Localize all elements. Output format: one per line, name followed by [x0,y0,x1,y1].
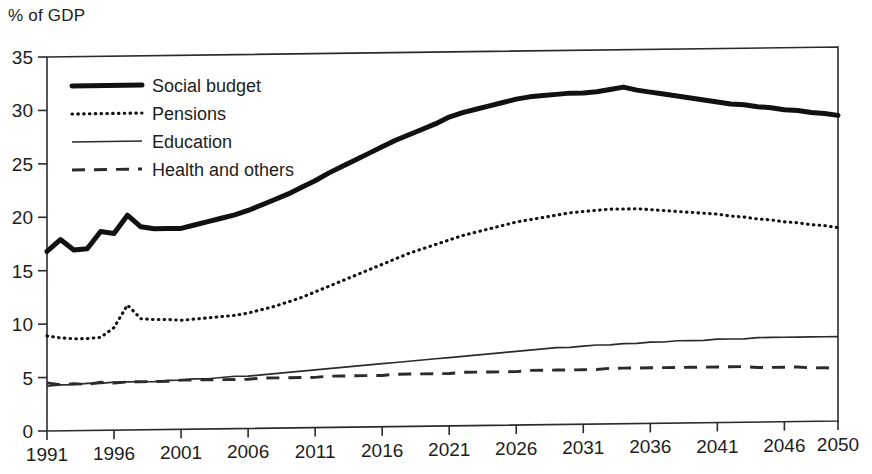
x-tick-label: 2046 [763,435,805,456]
y-axis-ticks: 05101520253035 [12,47,47,442]
x-tick-label: 2006 [227,441,269,462]
x-tick-label: 1991 [26,444,68,465]
chart-legend: Social budgetPensionsEducationHealth and… [72,76,294,180]
x-tick-label: 2036 [629,436,671,457]
legend-label-health-and-others: Health and others [152,160,294,180]
chart-container: % of GDP 05101520253035 1991199620012006… [0,0,872,474]
legend-swatch-pensions [72,113,142,114]
legend-label-education: Education [152,132,232,152]
x-tick-label: 1996 [93,443,135,464]
legend-label-social-budget: Social budget [152,76,261,96]
y-tick-label: 0 [22,421,33,442]
x-tick-label: 2021 [428,439,470,460]
x-tick-label: 2026 [495,438,537,459]
y-tick-label: 5 [22,368,33,389]
x-tick-label: 2011 [295,441,336,462]
legend-swatch-health-and-others [72,169,142,170]
series-line-health-and-others [47,367,838,385]
legend-swatch-education [72,141,142,142]
line-chart-svg: 05101520253035 1991199620012006201120162… [0,0,872,474]
y-tick-label: 35 [12,47,33,68]
x-tick-label: 2001 [160,442,202,463]
x-tick-label: 2031 [562,437,604,458]
x-tick-label: 2050 [817,434,859,455]
y-tick-label: 10 [12,314,33,335]
series-line-education [47,337,838,387]
legend-swatch-social-budget [72,85,142,86]
x-axis-ticks: 1991199620012006201120162021202620312036… [26,421,859,465]
y-tick-label: 25 [12,154,33,175]
x-tick-label: 2016 [361,440,403,461]
legend-label-pensions: Pensions [152,104,226,124]
x-tick-label: 2041 [696,436,738,457]
y-tick-label: 30 [12,100,33,121]
y-tick-label: 20 [12,207,33,228]
y-tick-label: 15 [12,261,33,282]
